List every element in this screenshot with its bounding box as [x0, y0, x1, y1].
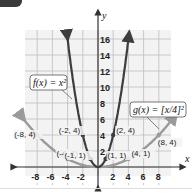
y-tick-label: 12: [100, 67, 110, 77]
divider: [0, 188, 192, 189]
point-label: (8, 4): [158, 138, 177, 147]
x-tick-label: -2: [77, 172, 85, 182]
g-point: [157, 133, 161, 137]
f-point: [111, 133, 115, 137]
y-tick-label: 6: [100, 115, 105, 125]
y-tick-label: 16: [100, 35, 110, 45]
y-tick-label: 10: [100, 83, 110, 93]
x-tick-label: -8: [31, 172, 39, 182]
x-tick-label: 8: [156, 172, 161, 182]
point-label: (2, 4): [116, 126, 135, 135]
x-tick-label: 6: [141, 172, 146, 182]
y-tick-label: 2: [100, 147, 105, 157]
point-label: (4, 1): [131, 149, 150, 158]
x-axis-label: x: [184, 153, 190, 164]
y-tick-label: 14: [100, 51, 110, 61]
y-tick-label: 8: [100, 99, 105, 109]
x-tick-label: 2: [110, 172, 115, 182]
parabola-chart: xy-8-6-4-22468246810121416(-8, 4)(-4, 1)…: [0, 0, 192, 194]
point-label: (-1, 1): [64, 151, 86, 160]
point-label: (-8, 4): [14, 130, 36, 139]
x-tick-label: -6: [46, 172, 54, 182]
point-label: (1, 1): [108, 151, 127, 160]
x-tick-label: 4: [125, 172, 130, 182]
y-axis-label: y: [101, 10, 107, 21]
point-label: (-2, 4): [59, 126, 81, 135]
y-tick-label: 4: [100, 131, 105, 141]
x-tick-label: -4: [62, 172, 70, 182]
f-label: f(x) = x²: [33, 77, 67, 89]
g-label: g(x) = [x/4]²: [133, 104, 185, 116]
